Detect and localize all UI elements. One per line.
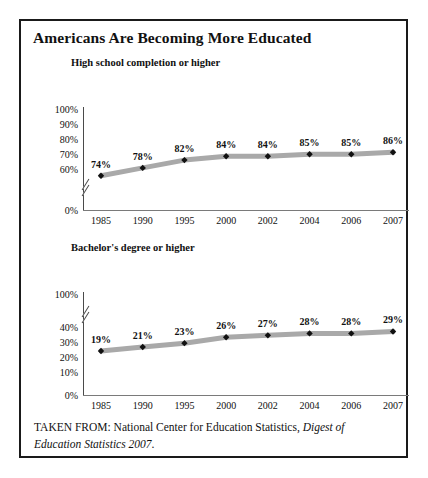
y-tick-label: 90% bbox=[60, 120, 78, 130]
data-point-label: 26% bbox=[216, 321, 236, 331]
figure-title: Americans Are Becoming More Educated bbox=[33, 29, 312, 47]
data-point-label: 28% bbox=[300, 317, 320, 327]
x-tick-label: 2004 bbox=[300, 401, 320, 411]
y-tick-label: 70% bbox=[60, 150, 78, 160]
data-point-label: 23% bbox=[174, 327, 194, 337]
y-tick-label: 100% bbox=[55, 105, 78, 115]
data-point-label: 82% bbox=[174, 144, 194, 154]
x-tick-label: 1985 bbox=[91, 216, 111, 226]
x-tick-label: 1995 bbox=[174, 401, 194, 411]
x-tick-label: 2007 bbox=[383, 216, 403, 226]
chart-panel-bachelors: Bachelor's degree or higher 100%40%30%20… bbox=[21, 236, 410, 416]
y-tick-label: 0% bbox=[65, 206, 78, 216]
source-suffix: . bbox=[152, 438, 155, 450]
y-tick-label: 80% bbox=[60, 135, 78, 145]
chart-subtitle-high-school: High school completion or higher bbox=[71, 57, 220, 68]
data-point-label: 84% bbox=[216, 140, 236, 150]
data-point-label: 86% bbox=[383, 136, 403, 146]
plot-area-high-school: 100%90%80%70%60%0%1985199019952000200220… bbox=[83, 107, 409, 211]
x-tick-label: 1985 bbox=[91, 401, 111, 411]
x-tick-label: 1990 bbox=[133, 401, 153, 411]
y-tick-label: 30% bbox=[60, 338, 78, 348]
data-point-label: 84% bbox=[258, 140, 278, 150]
series-bachelors bbox=[83, 292, 409, 396]
x-tick-label: 2002 bbox=[258, 216, 278, 226]
x-tick-label: 2002 bbox=[258, 401, 278, 411]
figure-source-note: TAKEN FROM: National Center for Educatio… bbox=[34, 419, 393, 452]
x-tick-label: 1990 bbox=[133, 216, 153, 226]
y-tick-label: 60% bbox=[60, 165, 78, 175]
x-tick-label: 2000 bbox=[216, 216, 236, 226]
chart-panel-high-school: High school completion or higher 100%90%… bbox=[21, 51, 410, 231]
chart-subtitle-bachelors: Bachelor's degree or higher bbox=[71, 242, 195, 253]
source-prefix: TAKEN FROM: National Center for Educatio… bbox=[34, 421, 303, 433]
y-tick-label: 0% bbox=[65, 391, 78, 401]
data-point-label: 28% bbox=[341, 317, 361, 327]
data-point-label: 21% bbox=[133, 331, 153, 341]
data-point-label: 19% bbox=[91, 335, 111, 345]
data-point-label: 74% bbox=[91, 160, 111, 170]
data-point-label: 85% bbox=[341, 138, 361, 148]
x-tick-label: 2000 bbox=[216, 401, 236, 411]
plot-area-bachelors: 100%40%30%20%10%0%1985199019952000200220… bbox=[83, 292, 409, 396]
figure-frame: Americans Are Becoming More Educated Hig… bbox=[19, 19, 408, 458]
data-point-label: 85% bbox=[300, 138, 320, 148]
x-tick-label: 2004 bbox=[300, 216, 320, 226]
y-tick-label: 100% bbox=[55, 290, 78, 300]
y-tick-label: 10% bbox=[60, 368, 78, 378]
x-tick-label: 2006 bbox=[341, 216, 361, 226]
data-point-label: 29% bbox=[383, 315, 403, 325]
data-point-label: 78% bbox=[133, 152, 153, 162]
y-tick-label: 20% bbox=[60, 353, 78, 363]
x-tick-label: 1995 bbox=[174, 216, 194, 226]
x-tick-label: 2006 bbox=[341, 401, 361, 411]
y-tick-label: 40% bbox=[60, 323, 78, 333]
data-point-label: 27% bbox=[258, 319, 278, 329]
x-tick-label: 2007 bbox=[383, 401, 403, 411]
